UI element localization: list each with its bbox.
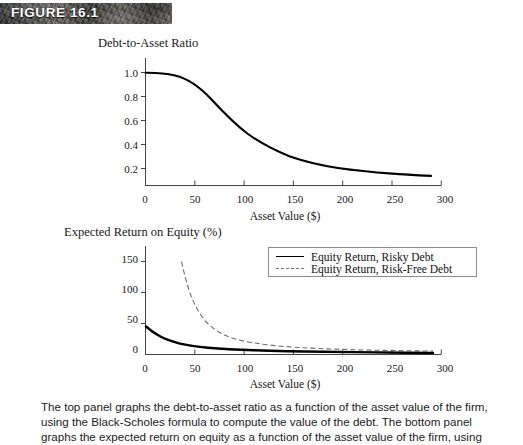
figure-caption: The top panel graphs the debt-to-asset r… (41, 399, 496, 445)
caption-line-1: The top panel graphs the debt-to-asset r… (41, 399, 496, 414)
caption-line-2: using the Black-Scholes formula to compu… (41, 414, 496, 429)
bottom-chart-panel: Expected Return on Equity (%) 150 100 50… (0, 220, 523, 395)
risky-debt-equity-return-curve (146, 327, 433, 354)
legend-label-risk-free-debt: Equity Return, Risk-Free Debt (311, 263, 452, 275)
figure-banner: FIGURE 16.1 (0, 3, 172, 24)
legend-label-risky-debt: Equity Return, Risky Debt (311, 251, 434, 263)
caption-line-3: graphs the expected return on equity as … (41, 429, 496, 444)
legend-dashed-line-icon (275, 264, 305, 274)
legend-solid-line-icon (275, 252, 305, 262)
bottom-chart-legend: Equity Return, Risky Debt Equity Return,… (268, 247, 477, 277)
top-chart-plot (0, 28, 523, 218)
figure-number-label: FIGURE 16.1 (11, 5, 99, 20)
debt-to-asset-curve (146, 73, 431, 176)
legend-entry-risk-free-debt: Equity Return, Risk-Free Debt (275, 262, 452, 275)
top-chart-panel: Debt-to-Asset Ratio 1.0 0.8 0.6 0.4 0.2 … (0, 28, 523, 218)
